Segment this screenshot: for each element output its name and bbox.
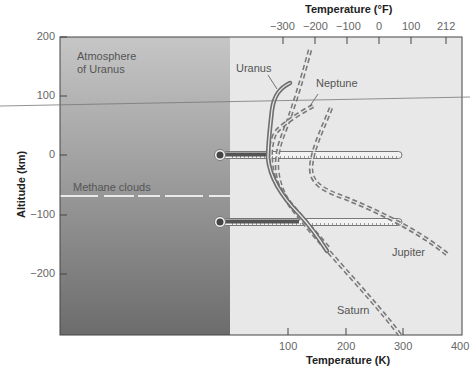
jupiter-label: Jupiter [392, 246, 425, 259]
x2-tick-neg300: −300 [270, 20, 295, 32]
x-tick-400: 400 [451, 340, 469, 352]
y-tick-neg200: −200 [30, 267, 55, 279]
x2-tick-212: 212 [437, 20, 455, 32]
methane-clouds-label: Methane clouds [73, 181, 151, 194]
y-axis-title: Altitude (km) [15, 151, 27, 218]
x2-tick-0: 0 [376, 20, 382, 32]
x2-tick-100: 100 [402, 20, 420, 32]
x2-axis-title: Temperature (°F) [305, 3, 392, 15]
chart-canvas [0, 0, 470, 367]
region-title-line2: of Uranus [77, 63, 136, 76]
y-tick-100: 100 [37, 89, 55, 101]
x-tick-100: 100 [279, 340, 297, 352]
y-tick-0: 0 [49, 148, 55, 160]
region-title-line1: Atmosphere [77, 50, 136, 63]
saturn-label: Saturn [337, 304, 369, 317]
x-tick-300: 300 [394, 340, 412, 352]
region-title: Atmosphere of Uranus [77, 50, 136, 75]
x-axis-title: Temperature (K) [306, 354, 390, 366]
y-tick-neg100: −100 [30, 208, 55, 220]
uranus-label: Uranus [236, 62, 271, 75]
neptune-label: Neptune [316, 77, 358, 90]
thermometer-0km [215, 150, 403, 161]
y-tick-200: 200 [37, 30, 55, 42]
x-tick-200: 200 [337, 340, 355, 352]
x2-tick-neg100: −100 [336, 20, 361, 32]
x2-tick-neg200: −200 [303, 20, 328, 32]
